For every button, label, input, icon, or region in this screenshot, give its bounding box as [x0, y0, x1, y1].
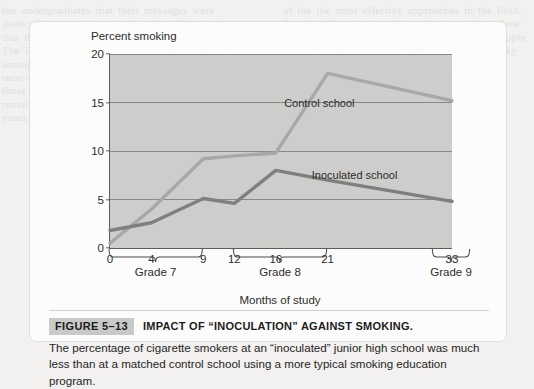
grade-label-grade-7: Grade 7 — [135, 266, 177, 278]
y-tick-label-0: 0 — [98, 242, 104, 254]
bracket-grade-7 — [109, 249, 202, 262]
caption-divider — [49, 310, 489, 311]
y-axis-label: Percent smoking — [91, 30, 177, 42]
y-tick-label-10: 10 — [91, 145, 104, 157]
grade-label-grade-8: Grade 8 — [259, 266, 301, 278]
figure-number-badge: FIGURE 5–13 — [49, 318, 134, 335]
y-tick-label-5: 5 — [98, 194, 104, 206]
figure-title: IMPACT OF “INOCULATION” AGAINST SMOKING. — [143, 320, 413, 332]
series-lines — [110, 54, 452, 248]
grade-brackets — [109, 248, 451, 264]
y-tick-label-15: 15 — [91, 97, 104, 109]
figure-caption-block: FIGURE 5–13 IMPACT OF “INOCULATION” AGAI… — [49, 310, 489, 389]
caption-heading: FIGURE 5–13 IMPACT OF “INOCULATION” AGAI… — [49, 318, 489, 335]
figure-panel: Percent smoking 0510152004912162133Contr… — [29, 21, 507, 342]
series-label-control-school: Control school — [284, 97, 354, 109]
plot-area: 0510152004912162133Control schoolInocula… — [109, 54, 452, 249]
x-axis-label: Months of study — [239, 294, 320, 306]
figure-caption-text: The percentage of cigarette smokers at a… — [49, 340, 483, 389]
y-tick-label-20: 20 — [91, 48, 104, 60]
bracket-grade-8 — [233, 249, 326, 262]
series-label-inoculated-school: Inoculated school — [312, 169, 398, 181]
chart-plot-wrapper: Percent smoking 0510152004912162133Contr… — [30, 22, 508, 284]
grade-label-grade-9: Grade 9 — [430, 266, 472, 278]
